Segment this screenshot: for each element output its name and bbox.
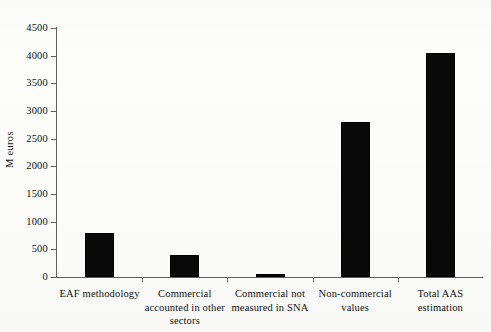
y-tick-mark	[51, 166, 57, 167]
bar	[426, 53, 455, 277]
y-tick-label: 2000	[26, 161, 48, 172]
plot-area: 050010001500200025003000350040004500	[57, 28, 483, 277]
y-tick-label: 3000	[26, 106, 48, 117]
x-axis-category-line: Non-commercial	[313, 287, 398, 301]
x-axis-category-label: Commercialaccounted in othersectors	[142, 287, 227, 328]
y-tick-mark	[51, 277, 57, 278]
bar	[341, 122, 370, 277]
y-tick-label: 1500	[26, 189, 48, 200]
bar	[85, 233, 114, 277]
y-tick-mark	[51, 139, 57, 140]
y-tick-label: 500	[32, 244, 48, 255]
bar	[256, 274, 285, 277]
x-axis-category-label: EAF methodology	[57, 287, 142, 301]
y-tick-label: 1000	[26, 216, 48, 227]
x-tick-mark	[313, 277, 314, 282]
y-tick-mark	[51, 28, 57, 29]
y-tick-label: 3500	[26, 78, 48, 89]
x-axis-category-line: Commercial	[142, 287, 227, 301]
y-tick-label: 4500	[26, 23, 48, 34]
y-tick-mark	[51, 222, 57, 223]
y-tick-label: 2500	[26, 133, 48, 144]
y-axis-title: M euros	[4, 131, 15, 168]
x-axis-category-label: Total AASestimation	[398, 287, 483, 314]
x-tick-mark	[227, 277, 228, 282]
x-axis-category-line: EAF methodology	[57, 287, 142, 301]
x-axis-category-line: sectors	[142, 314, 227, 328]
x-axis-category-line: accounted in other	[142, 301, 227, 315]
x-axis-category-line: measured in SNA	[227, 301, 312, 315]
x-axis-category-line: Commercial not	[227, 287, 312, 301]
x-axis-category-line: values	[313, 301, 398, 315]
y-tick-mark	[51, 56, 57, 57]
y-tick-label: 0	[43, 272, 48, 283]
y-tick-mark	[51, 194, 57, 195]
x-tick-mark	[398, 277, 399, 282]
x-tick-mark	[142, 277, 143, 282]
bar-chart-figure: M euros 05001000150020002500300035004000…	[0, 0, 491, 332]
x-axis-line	[56, 277, 483, 278]
x-axis-category-label: Non-commercialvalues	[313, 287, 398, 314]
y-tick-label: 4000	[26, 50, 48, 61]
y-tick-mark	[51, 83, 57, 84]
y-tick-mark	[51, 111, 57, 112]
y-tick-mark	[51, 249, 57, 250]
x-axis-category-line: estimation	[398, 301, 483, 315]
x-axis-category-line: Total AAS	[398, 287, 483, 301]
bar	[170, 255, 199, 277]
x-axis-category-label: Commercial notmeasured in SNA	[227, 287, 312, 314]
